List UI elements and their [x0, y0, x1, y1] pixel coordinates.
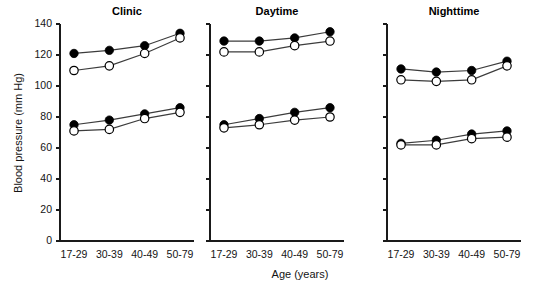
data-point-clinic-s0-2 [140, 42, 148, 50]
data-point-nighttime-s3-3 [503, 133, 511, 141]
series-line-clinic-0 [74, 33, 180, 53]
y-tick-label-140: 140 [34, 17, 52, 29]
data-point-clinic-s1-3 [176, 34, 184, 42]
data-point-daytime-s1-3 [326, 37, 334, 45]
data-point-daytime-s0-1 [255, 37, 263, 45]
data-point-nighttime-s0-2 [467, 66, 475, 74]
series-line-nighttime-0 [401, 61, 507, 72]
multi-panel-line-chart: 020406080100120140Clinic17-2930-3940-495… [0, 0, 546, 288]
data-point-daytime-s3-2 [290, 116, 298, 124]
data-point-daytime-s2-3 [326, 104, 334, 112]
series-line-nighttime-1 [401, 66, 507, 82]
panel-title-nighttime: Nighttime [429, 5, 480, 17]
panel-title-clinic: Clinic [112, 5, 142, 17]
y-tick-label-120: 120 [34, 48, 52, 60]
x-tick-label-clinic-3: 50-79 [167, 248, 194, 260]
data-point-daytime-s2-2 [290, 108, 298, 116]
y-axis-title: Blood pressure (mm Hg) [12, 73, 24, 193]
data-point-nighttime-s0-1 [432, 68, 440, 76]
data-point-nighttime-s3-0 [397, 141, 405, 149]
data-point-daytime-s0-2 [290, 34, 298, 42]
x-axis-title: Age (years) [272, 268, 329, 280]
data-point-clinic-s3-1 [105, 125, 113, 133]
y-tick-label-40: 40 [40, 172, 52, 184]
data-point-daytime-s3-0 [220, 124, 228, 132]
data-point-nighttime-s1-2 [467, 76, 475, 84]
series-line-daytime-0 [224, 32, 330, 41]
data-point-daytime-s0-0 [220, 37, 228, 45]
y-tick-label-100: 100 [34, 79, 52, 91]
data-point-clinic-s2-1 [105, 116, 113, 124]
x-tick-label-nighttime-3: 50-79 [494, 248, 521, 260]
data-point-clinic-s3-3 [176, 108, 184, 116]
data-point-daytime-s3-1 [255, 121, 263, 129]
x-tick-label-clinic-2: 40-49 [131, 248, 158, 260]
data-point-clinic-s0-0 [70, 49, 78, 57]
y-tick-label-0: 0 [46, 234, 52, 246]
panel-title-daytime: Daytime [256, 5, 299, 17]
x-tick-label-nighttime-1: 30-39 [423, 248, 450, 260]
series-line-daytime-1 [224, 41, 330, 52]
series-line-clinic-2 [74, 108, 180, 125]
data-point-nighttime-s1-3 [503, 62, 511, 70]
data-point-daytime-s1-1 [255, 48, 263, 56]
data-point-clinic-s3-2 [140, 114, 148, 122]
y-tick-label-20: 20 [40, 203, 52, 215]
y-tick-label-60: 60 [40, 141, 52, 153]
series-line-nighttime-3 [401, 137, 507, 145]
data-point-clinic-s1-2 [140, 49, 148, 57]
x-tick-label-clinic-1: 30-39 [96, 248, 123, 260]
data-point-nighttime-s3-2 [467, 135, 475, 143]
x-tick-label-daytime-0: 17-29 [211, 248, 238, 260]
data-point-clinic-s3-0 [70, 127, 78, 135]
series-line-clinic-1 [74, 38, 180, 71]
x-tick-label-daytime-2: 40-49 [281, 248, 308, 260]
series-line-clinic-3 [74, 112, 180, 131]
x-tick-label-clinic-0: 17-29 [61, 248, 88, 260]
x-tick-label-nighttime-2: 40-49 [458, 248, 485, 260]
data-point-daytime-s1-2 [290, 42, 298, 50]
data-point-nighttime-s1-1 [432, 77, 440, 85]
data-point-clinic-s1-1 [105, 62, 113, 70]
x-tick-label-daytime-1: 30-39 [246, 248, 273, 260]
data-point-daytime-s3-3 [326, 113, 334, 121]
x-tick-label-daytime-3: 50-79 [317, 248, 344, 260]
x-tick-label-nighttime-0: 17-29 [388, 248, 415, 260]
data-point-clinic-s0-1 [105, 46, 113, 54]
data-point-nighttime-s3-1 [432, 141, 440, 149]
figure-container: 020406080100120140Clinic17-2930-3940-495… [0, 0, 546, 288]
data-point-clinic-s1-0 [70, 66, 78, 74]
data-point-daytime-s1-0 [220, 48, 228, 56]
y-tick-label-80: 80 [40, 110, 52, 122]
data-point-daytime-s0-3 [326, 28, 334, 36]
data-point-nighttime-s0-0 [397, 65, 405, 73]
data-point-nighttime-s1-0 [397, 76, 405, 84]
